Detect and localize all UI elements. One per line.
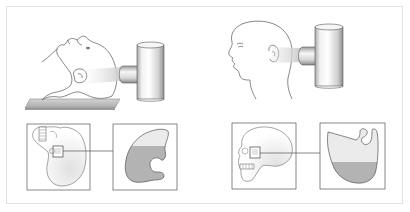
supine-head-icon — [42, 36, 117, 100]
positioning-illustration — [0, 0, 410, 212]
xray-tube-icon — [315, 24, 343, 88]
xray-tube-icon — [137, 42, 164, 101]
xray-beam-icon — [82, 67, 121, 84]
inset-skull-rotated — [27, 124, 90, 190]
right-panel — [229, 21, 385, 189]
inset-skull-lateral — [232, 123, 296, 189]
xray-tube-nozzle-icon — [119, 66, 138, 83]
platform-icon — [25, 99, 120, 110]
inset-sinus-fluid-level — [113, 124, 177, 190]
inset-sinus-fluid-level — [320, 123, 385, 189]
left-panel — [25, 36, 177, 190]
xray-beam-icon — [272, 47, 301, 63]
